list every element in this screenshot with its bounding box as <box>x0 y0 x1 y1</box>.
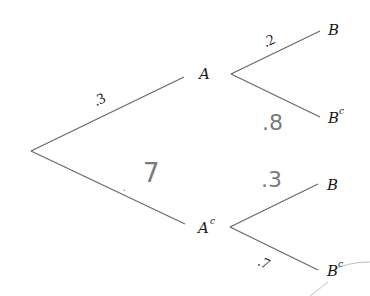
node-a-label: A <box>197 65 210 83</box>
prob-ac: 7 <box>143 158 160 188</box>
branch-a-to-b <box>231 31 320 74</box>
node-ac-b-label: B <box>326 176 338 194</box>
node-a-bc-label: B <box>327 109 339 127</box>
node-ac-bc-label: B <box>326 262 338 280</box>
prob-a: .3 <box>91 90 108 109</box>
branch-root-to-ac <box>31 151 185 224</box>
prob-ac-bc: .7 <box>256 253 273 272</box>
node-ac-bc-superscript: c <box>338 259 343 269</box>
node-ac-superscript: c <box>210 216 215 226</box>
node-ac-label: A <box>196 219 209 237</box>
prob-ac-dot: . <box>123 182 126 193</box>
node-a-b-label: B <box>327 21 339 39</box>
stray-pen-mark-2 <box>310 282 328 296</box>
prob-a-b: .2 <box>260 31 277 50</box>
branch-ac-to-bc <box>230 227 318 270</box>
probability-tree: A A c B B c B B c .3 .2 .7 . 7 .8 .3 <box>0 0 370 296</box>
prob-a-bc: .8 <box>262 110 283 135</box>
branch-root-to-a <box>31 77 184 151</box>
node-a-bc-superscript: c <box>339 106 344 116</box>
prob-ac-b: .3 <box>261 167 282 192</box>
